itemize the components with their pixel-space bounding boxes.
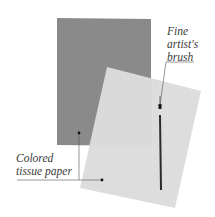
- brush-label-line-2: artist's: [167, 38, 198, 51]
- tissue-label-line-2: tissue paper: [16, 165, 72, 178]
- tissue-paper-label: Colored tissue paper: [16, 152, 72, 178]
- illustration: Fine artist's brush Colored tissue paper: [0, 0, 215, 217]
- tissue-label-line-1: Colored: [16, 152, 72, 165]
- brush-label: Fine artist's brush: [167, 25, 198, 64]
- brush-label-line-3: brush: [167, 51, 198, 64]
- brush-label-line-1: Fine: [167, 25, 198, 38]
